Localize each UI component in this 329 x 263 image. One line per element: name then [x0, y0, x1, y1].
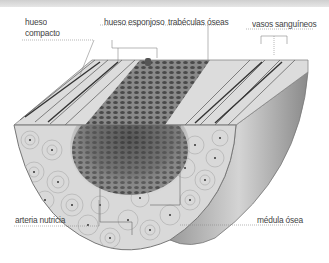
label-arteria-nutricia: arteria nutricia [15, 214, 65, 225]
label-trabeculas-oseas: trabéculas óseas [168, 16, 228, 27]
label-hueso-esponjoso: hueso esponjoso [104, 16, 165, 27]
label-vasos-sanguineos: vasos sanguíneos [252, 18, 317, 29]
label-hueso-compacto-line2: compacto [25, 27, 60, 38]
label-medula-osea: médula ósea [257, 214, 303, 225]
label-hueso-compacto-line1: hueso [25, 16, 47, 27]
